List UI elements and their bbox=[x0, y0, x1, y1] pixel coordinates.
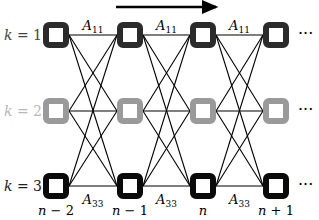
edge-label-a33: A33 bbox=[82, 192, 104, 209]
state-node bbox=[193, 101, 213, 121]
row-label: k = 1 bbox=[4, 27, 42, 43]
column-label: n + 1 bbox=[258, 203, 294, 218]
column-label: n − 2 bbox=[38, 203, 74, 218]
state-node bbox=[120, 25, 140, 45]
edge-label-a11: A11 bbox=[82, 18, 104, 35]
ellipsis: ··· bbox=[298, 100, 313, 119]
ellipsis: ··· bbox=[298, 24, 313, 43]
state-node bbox=[266, 101, 286, 121]
edge-label-a33: A33 bbox=[228, 192, 250, 209]
state-node bbox=[193, 25, 213, 45]
state-node bbox=[120, 101, 140, 121]
row-label: k = 3 bbox=[4, 178, 42, 194]
state-node bbox=[46, 176, 66, 196]
state-node bbox=[46, 25, 66, 45]
state-node bbox=[46, 101, 66, 121]
ellipsis: ··· bbox=[298, 175, 313, 194]
column-label: n bbox=[199, 203, 207, 218]
state-node bbox=[266, 25, 286, 45]
edge-label-a11: A11 bbox=[228, 18, 250, 35]
edge-label-a11: A11 bbox=[155, 18, 177, 35]
column-label: n − 1 bbox=[112, 203, 148, 218]
transition-edges bbox=[69, 35, 263, 186]
state-transition-diagram: ···k = 1···k = 2···k = 3n − 2n − 1nn + 1… bbox=[0, 0, 319, 220]
row-label: k = 2 bbox=[4, 103, 42, 119]
state-node bbox=[120, 176, 140, 196]
state-node bbox=[193, 176, 213, 196]
edge-label-a33: A33 bbox=[155, 192, 177, 209]
state-node bbox=[266, 176, 286, 196]
